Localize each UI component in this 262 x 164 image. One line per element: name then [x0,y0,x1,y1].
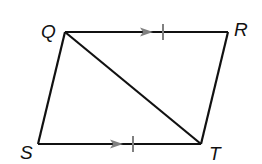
segment-rt [201,32,228,144]
vertex-label-r: R [234,19,248,40]
vertex-label-t: T [209,143,222,164]
vertex-label-q: Q [41,21,56,42]
diagonal-qt [65,32,201,144]
vertex-label-s: S [20,142,33,163]
segment-sq [38,32,65,144]
parallelogram-diagram: Q R S T [0,0,262,164]
